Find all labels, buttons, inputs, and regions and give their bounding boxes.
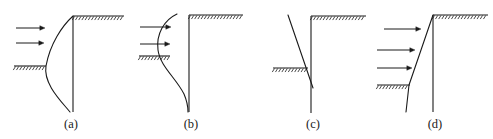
excavation-ground-b-hatch-tick [141,57,143,61]
load-arrow [140,25,171,30]
retained-ground-d-hatch-tick [464,16,466,20]
retained-ground-b-hatch-tick [214,16,216,20]
retained-ground-d-hatch-tick [439,16,441,20]
excavation-ground-a-hatch-tick [36,67,38,71]
excavation-ground-c-hatch-tick [291,69,293,73]
retained-ground-d-hatch-tick [442,16,444,20]
retained-ground-a-hatch-tick [91,17,93,21]
retained-ground-d-hatch-tick [448,16,450,20]
retained-ground-d-hatch-tick [435,16,437,20]
excavation-ground-a-hatch-tick [39,67,41,71]
retained-ground-a-hatch-tick [95,17,97,21]
retained-ground-b-hatch-tick [211,16,213,20]
retained-ground-a-hatch-tick [117,17,119,21]
retained-ground-c-hatch-tick [355,17,357,21]
excavation-ground-c [272,68,308,72]
panel-d [376,15,488,112]
excavation-ground-b-hatch-tick [154,57,156,61]
retained-ground-c-hatch-tick [345,17,347,21]
retained-ground-c-hatch-tick [326,17,328,21]
excavation-ground-b-hatch-tick [167,57,169,61]
retained-ground-c-hatch-tick [313,17,315,21]
excavation-ground-d-hatch-tick [395,86,397,90]
retained-ground-a-hatch-tick [75,17,77,21]
excavation-ground-c-hatch-tick [301,69,303,73]
panel-c [272,15,366,113]
retained-ground-b-hatch-tick [227,16,229,20]
panel-b [138,14,243,112]
excavation-ground-c-hatch-tick [285,69,287,73]
excavation-ground-a-hatch-tick [16,67,18,71]
retained-ground-c [310,16,366,20]
retained-ground-a-hatch-tick [120,17,122,21]
panel-label-c: (c) [293,117,333,132]
retained-ground-b-hatch-tick [204,16,206,20]
load-arrow-head [416,27,421,32]
retained-ground-b-hatch-tick [201,16,203,20]
excavation-ground-c-hatch-tick [275,69,277,73]
retained-ground-a-hatch-tick [101,17,103,21]
retained-ground-d-hatch-tick [483,16,485,20]
excavation-ground-c-hatch-tick [288,69,290,73]
excavation-ground-d-hatch-tick [405,86,407,90]
excavation-ground-b [138,56,170,60]
retained-ground-b-hatch-tick [207,16,209,20]
excavation-ground-a-hatch-tick [42,67,44,71]
excavation-ground-c-hatch-tick [272,69,274,73]
retained-ground-d-hatch-tick [461,16,463,20]
excavation-ground-c-hatch-tick [295,69,297,73]
retained-ground-b-hatch-tick [239,16,241,20]
load-arrow-head [39,41,44,46]
retained-ground-c-hatch-tick [349,17,351,21]
excavation-ground-d-hatch-tick [389,86,391,90]
excavation-ground-d [376,85,410,89]
retained-ground-d-hatch-tick [480,16,482,20]
retained-ground-b-hatch-tick [230,16,232,20]
retained-ground-d-hatch-tick [455,16,457,20]
load-arrow [140,42,170,47]
load-arrow [384,27,421,32]
retained-ground-c-hatch-tick [342,17,344,21]
retained-ground-b-hatch-tick [191,16,193,20]
retained-ground-c-hatch-tick [336,17,338,21]
retained-ground-a-hatch-tick [98,17,100,21]
retained-ground-a-hatch-tick [107,17,109,21]
retained-ground-c-hatch-tick [339,17,341,21]
excavation-ground-a [13,66,46,70]
retained-ground-a-hatch-tick [114,17,116,21]
retained-ground-a-hatch-tick [85,17,87,21]
retained-ground-d-hatch-tick [458,16,460,20]
deflection-curve-a [46,16,73,112]
excavation-ground-a-hatch-tick [23,67,25,71]
retained-ground-b [188,15,243,19]
excavation-ground-b-hatch-tick [151,57,153,61]
excavation-ground-b-hatch-tick [138,57,140,61]
retained-ground-c-hatch-tick [352,17,354,21]
excavation-ground-d-hatch-tick [383,86,385,90]
excavation-ground-a-hatch-tick [13,67,15,71]
load-arrow-head [166,25,171,30]
excavation-ground-b-hatch-tick [148,57,150,61]
excavation-ground-c-hatch-tick [282,69,284,73]
excavation-ground-d-hatch-tick [392,86,394,90]
retained-ground-b-hatch-tick [223,16,225,20]
retained-ground-a [72,16,124,20]
excavation-ground-b-hatch-tick [164,57,166,61]
retained-ground-d-hatch-tick [451,16,453,20]
panel-label-a: (a) [51,117,91,132]
retained-ground-d-hatch-tick [471,16,473,20]
deflection-curve-b [158,14,188,112]
retained-ground-d-hatch-tick [445,16,447,20]
excavation-ground-d-hatch-tick [399,86,401,90]
load-arrow-head [410,48,415,53]
retained-ground-d [432,15,488,19]
excavation-ground-d-hatch-tick [386,86,388,90]
panel-label-d: (d) [415,117,455,132]
retained-ground-a-hatch-tick [79,17,81,21]
retained-ground-a-hatch-tick [104,17,106,21]
retained-ground-b-hatch-tick [236,16,238,20]
excavation-ground-d-hatch-tick [402,86,404,90]
retained-ground-c-hatch-tick [323,17,325,21]
retained-ground-b-hatch-tick [233,16,235,20]
retained-ground-c-hatch-tick [358,17,360,21]
